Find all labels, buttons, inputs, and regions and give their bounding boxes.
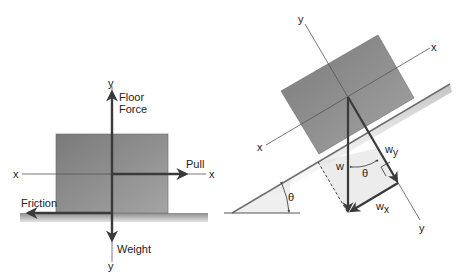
x-right-label: x — [209, 168, 215, 180]
wx-label: wx — [375, 200, 389, 215]
floor — [20, 213, 208, 222]
wx-label-base: w — [375, 200, 384, 212]
level-floor-diagram: y y x x Floor Force Pull Friction Weight — [13, 77, 215, 272]
free-body-diagrams: y y x x Floor Force Pull Friction Weight — [0, 0, 464, 277]
weight-label: Weight — [117, 243, 151, 255]
y-top-label: y — [298, 13, 304, 25]
x-left-label: x — [257, 141, 263, 153]
theta-incline-label: θ — [288, 191, 294, 203]
wy-label-base: w — [384, 143, 393, 155]
force-label: Force — [119, 103, 147, 115]
floor-label: Floor — [119, 91, 144, 103]
x-left-label: x — [13, 168, 19, 180]
y-bottom-label: y — [419, 222, 425, 234]
x-right-label: x — [431, 41, 437, 53]
inclined-plane-diagram: y y x x w wy wx θ θ — [224, 13, 452, 234]
wx-label-sub: x — [384, 204, 389, 215]
wy-label-sub: y — [393, 147, 398, 158]
y-bottom-label: y — [108, 260, 114, 272]
y-top-label: y — [108, 77, 114, 89]
wy-label: wy — [384, 143, 398, 158]
pull-label: Pull — [186, 158, 204, 170]
theta-vectors-label: θ — [362, 167, 368, 179]
friction-label: Friction — [21, 197, 57, 209]
w-label: w — [335, 160, 344, 172]
